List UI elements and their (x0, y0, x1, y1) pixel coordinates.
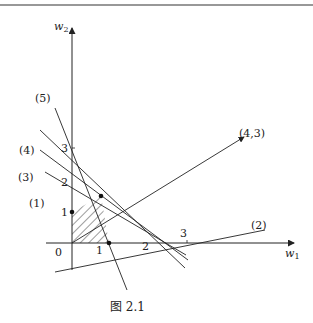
figure-caption: 图 2.1 (110, 301, 145, 313)
w1-axis-label: w1 (285, 248, 300, 261)
point-x-intercept (107, 241, 112, 246)
point-0-1 (70, 210, 75, 215)
vector-label: (4,3) (239, 128, 265, 139)
y-tick-3: 3 (61, 143, 68, 154)
line-1-label: (1) (29, 198, 45, 209)
line-2-label: (2) (251, 220, 267, 231)
origin-label: 0 (55, 247, 62, 258)
line-3-label: (3) (18, 172, 34, 183)
x-tick-1: 1 (96, 245, 103, 256)
w2-axis-label: w2 (54, 21, 69, 34)
point-vertex (99, 194, 104, 199)
y-tick-2: 2 (61, 177, 68, 188)
x-tick-2: 2 (142, 241, 149, 252)
feasible-region (72, 196, 109, 243)
objective-vector (72, 137, 244, 243)
line-5-label: (5) (35, 93, 51, 104)
line-4-label: (4) (19, 145, 35, 156)
y-tick-1: 1 (61, 207, 68, 218)
diagram-canvas (0, 0, 313, 323)
x-tick-3: 3 (180, 228, 187, 239)
